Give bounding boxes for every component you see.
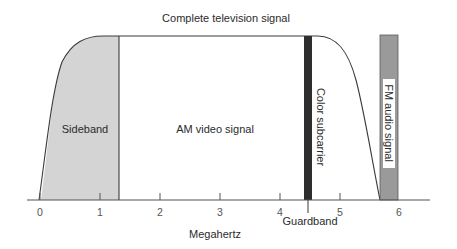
tick-label-6: 6 xyxy=(396,206,402,218)
fm-audio-label: FM audio signal xyxy=(383,84,395,162)
x-axis-label: Megahertz xyxy=(189,228,241,240)
diagram-title: Complete television signal xyxy=(162,12,290,24)
color-subcarrier-label: Color subcarrier xyxy=(315,88,327,167)
tick-label-1: 1 xyxy=(97,206,103,218)
tick-label-2: 2 xyxy=(157,206,163,218)
tv-signal-diagram: Complete television signal 0 1 2 3 4 5 6… xyxy=(0,0,457,249)
sideband-label: Sideband xyxy=(62,123,109,135)
tick-label-0: 0 xyxy=(37,206,43,218)
tick-label-5: 5 xyxy=(337,206,343,218)
sideband-region xyxy=(41,36,119,200)
guardband-label: Guardband xyxy=(282,215,337,227)
am-video-label: AM video signal xyxy=(176,123,254,135)
tick-label-3: 3 xyxy=(217,206,223,218)
color-subcarrier-bar xyxy=(304,36,312,200)
